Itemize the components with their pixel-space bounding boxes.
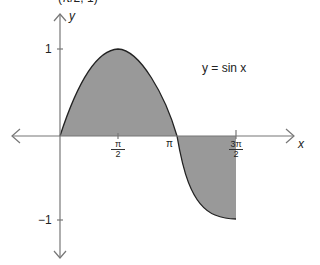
function-label: y = sin x <box>202 61 246 75</box>
y-axis-label: y <box>69 9 75 23</box>
x-tick-3pi-over-2: 3π 2 <box>229 140 243 159</box>
top-cropped-label: (π/2, 1) <box>58 0 98 5</box>
x-axis-label: x <box>298 137 304 151</box>
y-tick-1: 1 <box>45 42 52 56</box>
x-tick-pi: π <box>166 138 173 149</box>
sine-graph-figure: (π/2, 1) y x 1 −1 y = sin x π 2 π 3π 2 <box>0 0 320 265</box>
x-tick-pi-over-2: π 2 <box>111 140 125 159</box>
y-tick-minus-1: −1 <box>38 213 52 227</box>
